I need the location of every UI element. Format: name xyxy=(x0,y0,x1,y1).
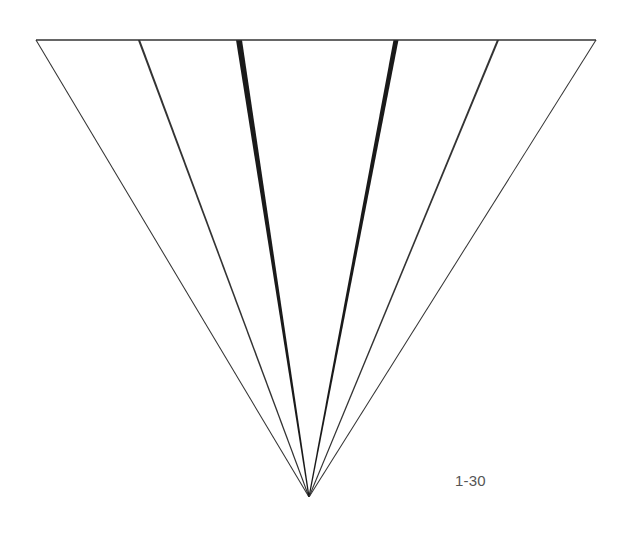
inner-right-line xyxy=(308,40,499,497)
radiating-lines xyxy=(35,40,596,497)
fan-triangle-diagram xyxy=(0,0,623,535)
thick-left-line xyxy=(236,40,310,497)
thick-right-line xyxy=(308,40,398,497)
outer-left-line xyxy=(35,40,309,497)
figure-label: 1-30 xyxy=(455,472,486,489)
inner-left-line xyxy=(138,40,310,497)
